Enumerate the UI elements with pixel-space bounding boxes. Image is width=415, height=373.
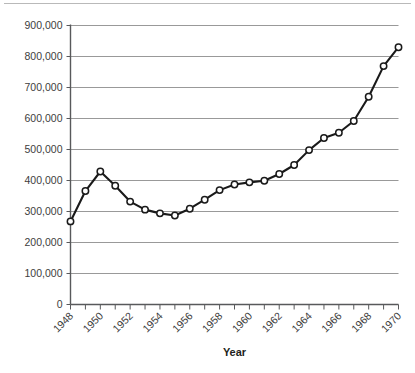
- y-tick-label: 700,000: [25, 81, 63, 93]
- line-chart-canvas: 0100,000200,000300,000400,000500,000600,…: [0, 0, 415, 373]
- x-tick-label: 1948: [50, 309, 75, 334]
- data-point-marker: [291, 162, 297, 168]
- data-point-marker: [276, 171, 282, 177]
- x-tick-label: 1970: [378, 309, 403, 334]
- chart-figure: 0100,000200,000300,000400,000500,000600,…: [0, 0, 415, 373]
- data-point-marker: [365, 94, 371, 100]
- y-tick-label: 200,000: [25, 236, 63, 248]
- y-tick-label: 500,000: [25, 143, 63, 155]
- x-axis-title: Year: [223, 346, 247, 358]
- y-tick-label: 300,000: [25, 205, 63, 217]
- x-axis-ticks-group: [71, 305, 399, 310]
- data-point-marker: [246, 179, 252, 185]
- data-point-marker: [97, 168, 103, 174]
- x-tick-label: 1966: [319, 309, 344, 334]
- data-point-marker: [380, 63, 386, 69]
- data-point-marker: [82, 188, 88, 194]
- data-point-marker: [216, 187, 222, 193]
- y-axis-tick-labels: 0100,000200,000300,000400,000500,000600,…: [25, 19, 63, 310]
- x-tick-label: 1954: [140, 309, 165, 334]
- x-tick-label: 1956: [170, 309, 195, 334]
- x-tick-label: 1950: [80, 309, 105, 334]
- series-line-path: [71, 47, 399, 221]
- y-tick-label: 0: [57, 298, 63, 310]
- y-tick-label: 400,000: [25, 174, 63, 186]
- data-point-marker: [336, 130, 342, 136]
- y-tick-label: 900,000: [25, 19, 63, 31]
- data-point-marker: [261, 178, 267, 184]
- data-point-marker: [157, 210, 163, 216]
- data-point-marker: [306, 147, 312, 153]
- data-point-marker: [201, 197, 207, 203]
- data-point-marker: [321, 135, 327, 141]
- x-tick-label: 1960: [229, 309, 254, 334]
- x-axis-tick-labels: 1948195019521954195619581960196219641966…: [50, 309, 403, 334]
- x-tick-label: 1958: [200, 309, 225, 334]
- data-point-marker: [112, 183, 118, 189]
- data-point-marker: [142, 206, 148, 212]
- x-tick-label: 1952: [110, 309, 135, 334]
- data-point-markers: [67, 44, 401, 225]
- y-tick-label: 600,000: [25, 112, 63, 124]
- data-point-marker: [187, 206, 193, 212]
- data-point-marker: [127, 198, 133, 204]
- x-tick-label: 1962: [259, 309, 284, 334]
- gridlines-group: [71, 26, 399, 274]
- data-point-marker: [231, 181, 237, 187]
- data-point-marker: [351, 118, 357, 124]
- x-tick-label: 1968: [349, 309, 374, 334]
- data-point-marker: [395, 44, 401, 50]
- data-point-marker: [172, 212, 178, 218]
- y-tick-label: 100,000: [25, 267, 63, 279]
- data-point-marker: [67, 218, 73, 224]
- y-tick-label: 800,000: [25, 50, 63, 62]
- x-tick-label: 1964: [289, 309, 314, 334]
